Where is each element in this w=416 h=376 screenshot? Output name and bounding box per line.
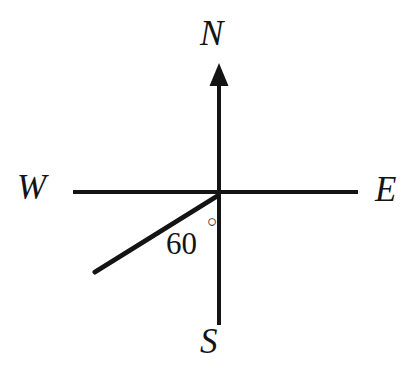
- degree-symbol-icon: ○: [207, 213, 217, 230]
- south-label: S: [200, 324, 218, 359]
- figure-background: [0, 0, 416, 376]
- north-label: N: [200, 16, 223, 51]
- east-label: E: [375, 172, 396, 207]
- west-label: W: [17, 170, 46, 205]
- compass-diagram-canvas: [0, 0, 416, 376]
- compass-bearing-figure: N S W E 60 ○: [0, 0, 416, 376]
- angle-value-label: 60: [166, 228, 197, 259]
